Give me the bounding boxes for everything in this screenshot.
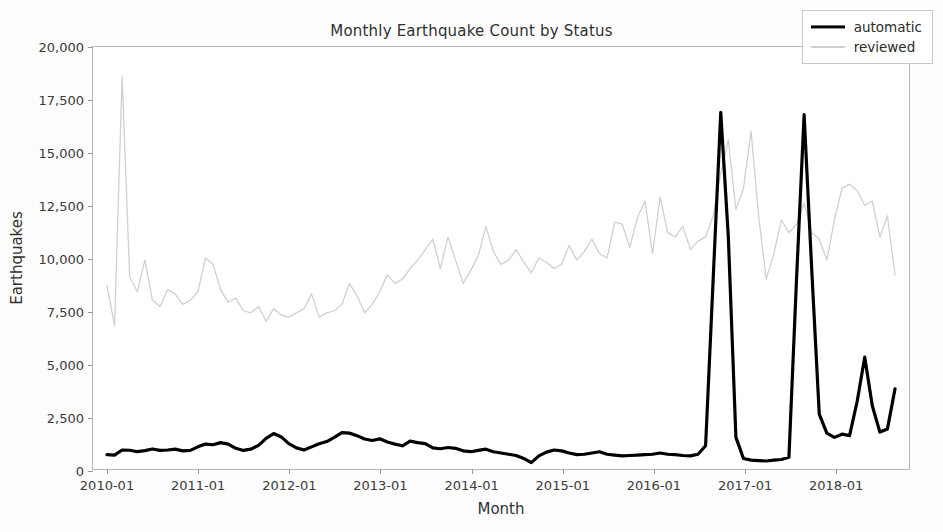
legend-swatch-automatic bbox=[811, 21, 845, 33]
x-tick-mark bbox=[563, 469, 564, 474]
y-tick-label: 12,500 bbox=[39, 199, 85, 214]
x-axis-label: Month bbox=[92, 500, 910, 518]
x-tick-mark bbox=[198, 469, 199, 474]
x-tick-label: 2015-01 bbox=[536, 478, 590, 493]
y-tick-mark bbox=[88, 471, 93, 472]
y-axis-label-text: Earthquakes bbox=[8, 211, 26, 305]
y-axis-label: Earthquakes bbox=[6, 46, 28, 470]
x-tick-mark bbox=[654, 469, 655, 474]
y-tick-label: 17,500 bbox=[39, 93, 85, 108]
x-tick-label: 2010-01 bbox=[80, 478, 134, 493]
y-tick-label: 2,500 bbox=[47, 411, 84, 426]
x-tick-mark bbox=[472, 469, 473, 474]
x-tick-label: 2017-01 bbox=[718, 478, 772, 493]
chart-legend: automatic reviewed bbox=[802, 10, 933, 64]
y-tick-label: 15,000 bbox=[39, 146, 85, 161]
series-lines bbox=[93, 47, 909, 469]
series-line-reviewed bbox=[107, 77, 895, 326]
y-tick-label: 5,000 bbox=[47, 358, 84, 373]
legend-swatch-reviewed bbox=[811, 41, 845, 53]
x-tick-mark bbox=[380, 469, 381, 474]
legend-label-automatic: automatic bbox=[854, 19, 922, 35]
x-tick-label: 2012-01 bbox=[262, 478, 316, 493]
x-tick-mark bbox=[836, 469, 837, 474]
plot-area: 02,5005,0007,50010,00012,50015,00017,500… bbox=[92, 46, 910, 470]
x-tick-label: 2014-01 bbox=[444, 478, 498, 493]
series-line-automatic bbox=[107, 112, 895, 462]
y-tick-label: 7,500 bbox=[47, 305, 84, 320]
y-tick-label: 20,000 bbox=[39, 40, 85, 55]
figure-canvas: Monthly Earthquake Count by Status Earth… bbox=[0, 0, 943, 532]
x-tick-label: 2013-01 bbox=[353, 478, 407, 493]
legend-item-reviewed[interactable]: reviewed bbox=[811, 37, 922, 57]
x-tick-label: 2016-01 bbox=[627, 478, 681, 493]
x-tick-mark bbox=[107, 469, 108, 474]
x-tick-mark bbox=[745, 469, 746, 474]
legend-item-automatic[interactable]: automatic bbox=[811, 17, 922, 37]
x-tick-label: 2011-01 bbox=[171, 478, 225, 493]
x-tick-label: 2018-01 bbox=[809, 478, 863, 493]
y-tick-label: 0 bbox=[76, 464, 84, 479]
x-tick-mark bbox=[289, 469, 290, 474]
legend-label-reviewed: reviewed bbox=[854, 39, 916, 55]
y-tick-label: 10,000 bbox=[39, 252, 85, 267]
